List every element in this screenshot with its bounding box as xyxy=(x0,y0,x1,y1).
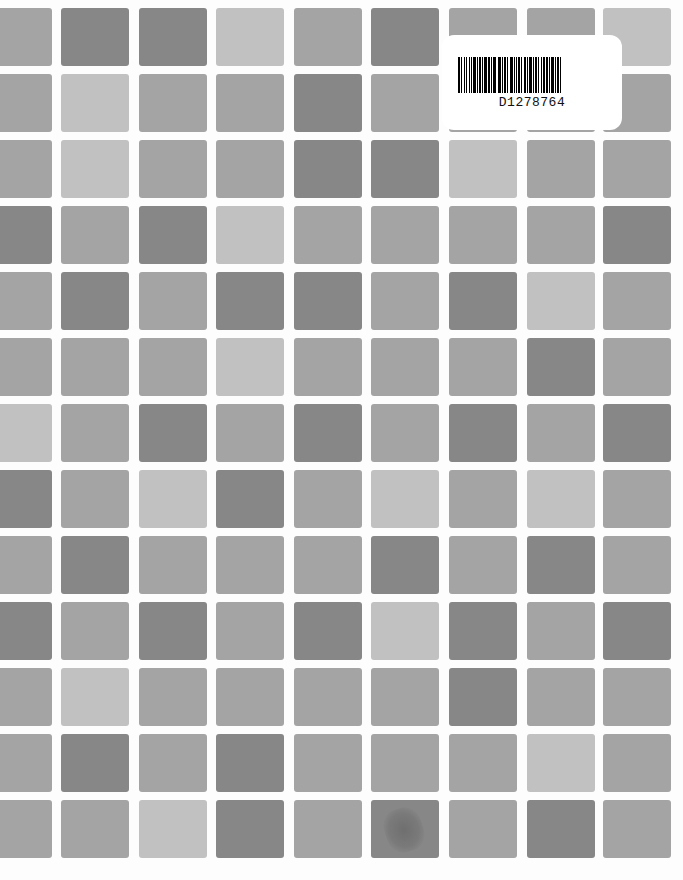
pattern-tile xyxy=(294,404,362,462)
pattern-tile xyxy=(61,338,129,396)
pattern-tile xyxy=(449,536,517,594)
pattern-tile xyxy=(139,404,207,462)
pattern-tile xyxy=(216,404,284,462)
pattern-tile xyxy=(294,734,362,792)
pattern-tile xyxy=(139,206,207,264)
pattern-tile xyxy=(603,470,671,528)
pattern-tile xyxy=(216,338,284,396)
pattern-tile xyxy=(61,602,129,660)
pattern-tile xyxy=(139,470,207,528)
pattern-tile xyxy=(294,470,362,528)
pattern-tile xyxy=(527,668,595,726)
pattern-tile xyxy=(603,140,671,198)
pattern-tile xyxy=(61,8,129,66)
pattern-tile xyxy=(371,272,439,330)
pattern-tile xyxy=(294,536,362,594)
pattern-tile xyxy=(449,140,517,198)
pattern-tile xyxy=(527,404,595,462)
pattern-tile xyxy=(371,602,439,660)
pattern-tile xyxy=(294,74,362,132)
pattern-tile xyxy=(603,800,671,858)
pattern-tile xyxy=(294,668,362,726)
pattern-tile xyxy=(139,272,207,330)
pattern-tile xyxy=(371,800,439,858)
barcode-number: D1278764 xyxy=(442,95,622,110)
pattern-tile xyxy=(449,734,517,792)
pattern-tile xyxy=(0,602,52,660)
pattern-tile xyxy=(527,338,595,396)
pattern-tile xyxy=(216,206,284,264)
pattern-tile xyxy=(449,272,517,330)
pattern-tile xyxy=(371,74,439,132)
pattern-tile xyxy=(0,74,52,132)
pattern-tile xyxy=(0,272,52,330)
pattern-tile xyxy=(216,272,284,330)
pattern-tile xyxy=(527,140,595,198)
pattern-tile xyxy=(216,8,284,66)
pattern-tile xyxy=(216,734,284,792)
pattern-tile xyxy=(527,536,595,594)
pattern-tile xyxy=(61,74,129,132)
pattern-tile xyxy=(139,734,207,792)
pattern-tile xyxy=(61,206,129,264)
pattern-tile xyxy=(603,272,671,330)
pattern-tile xyxy=(449,800,517,858)
pattern-tile xyxy=(371,140,439,198)
book-cover xyxy=(0,0,683,880)
barcode-label: D1278764 xyxy=(442,35,622,130)
pattern-tile xyxy=(139,800,207,858)
pattern-tile xyxy=(294,272,362,330)
pattern-tile xyxy=(61,536,129,594)
pattern-tile xyxy=(216,74,284,132)
pattern-tile xyxy=(294,338,362,396)
pattern-tile xyxy=(0,800,52,858)
pattern-tile xyxy=(61,470,129,528)
pattern-tile xyxy=(0,338,52,396)
pattern-tile xyxy=(449,602,517,660)
pattern-tile xyxy=(527,602,595,660)
pattern-tile xyxy=(449,404,517,462)
pattern-tile xyxy=(0,140,52,198)
pattern-tile xyxy=(603,536,671,594)
pattern-tile xyxy=(294,800,362,858)
pattern-tile xyxy=(294,602,362,660)
pattern-tile xyxy=(0,206,52,264)
pattern-tile xyxy=(294,206,362,264)
pattern-tile xyxy=(371,404,439,462)
pattern-tile xyxy=(603,734,671,792)
pattern-tile xyxy=(294,140,362,198)
pattern-tile xyxy=(139,338,207,396)
pattern-tile xyxy=(527,272,595,330)
pattern-tile xyxy=(449,470,517,528)
pattern-tile xyxy=(0,668,52,726)
pattern-tile xyxy=(371,470,439,528)
pattern-tile xyxy=(216,668,284,726)
pattern-tile xyxy=(61,140,129,198)
pattern-tile xyxy=(139,668,207,726)
pattern-tile xyxy=(0,734,52,792)
pattern-tile xyxy=(216,140,284,198)
pattern-tile xyxy=(61,404,129,462)
barcode-icon xyxy=(458,57,598,93)
pattern-tile xyxy=(139,602,207,660)
pattern-tile xyxy=(527,800,595,858)
pattern-tile xyxy=(449,338,517,396)
pattern-tile xyxy=(527,734,595,792)
pattern-tile xyxy=(371,8,439,66)
pattern-tile xyxy=(371,734,439,792)
pattern-tile xyxy=(603,338,671,396)
pattern-tile xyxy=(603,668,671,726)
pattern-tile xyxy=(371,668,439,726)
pattern-tile xyxy=(449,668,517,726)
pattern-tile xyxy=(603,602,671,660)
pattern-tile xyxy=(216,602,284,660)
pattern-tile xyxy=(0,404,52,462)
smudge-mark xyxy=(379,803,429,857)
barcode-bar xyxy=(561,57,563,93)
pattern-tile xyxy=(139,8,207,66)
pattern-tile xyxy=(0,8,52,66)
pattern-tile xyxy=(371,206,439,264)
pattern-tile xyxy=(294,8,362,66)
pattern-tile xyxy=(61,668,129,726)
pattern-tile xyxy=(216,470,284,528)
